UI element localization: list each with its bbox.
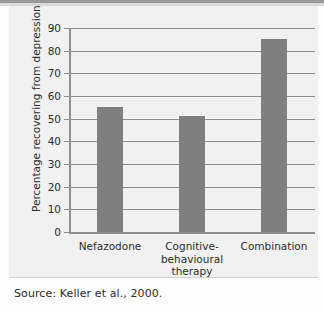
y-axis-tick-label: 40 [35, 135, 61, 147]
x-axis-line [69, 232, 315, 234]
bar [261, 39, 287, 232]
gridline [69, 28, 315, 29]
y-axis-tick-label: 20 [35, 181, 61, 193]
figure-source-area: Source: Keller et al., 2000. [9, 278, 318, 311]
figure-right-margin [318, 6, 324, 311]
x-axis-category-label-line: Combination [226, 240, 322, 253]
y-axis-line [69, 28, 71, 233]
bar [179, 116, 205, 232]
y-axis-tick-labels: 9080706050403020100 [31, 6, 61, 277]
figure-left-margin [0, 6, 9, 311]
y-axis-tick-label: 50 [35, 113, 61, 125]
x-axis-category-label-line: behavioural [144, 253, 240, 266]
chart-plot-panel: Percentage recovering from depression 90… [9, 6, 318, 277]
source-note: Source: Keller et al., 2000. [14, 287, 162, 300]
x-axis-category-label-line: therapy [144, 265, 240, 278]
y-axis-tick-label: 80 [35, 45, 61, 57]
y-axis-tick-label: 10 [35, 203, 61, 215]
y-axis-tick-label: 0 [35, 226, 61, 238]
y-axis-tick-label: 60 [35, 90, 61, 102]
y-axis-tick-label: 90 [35, 22, 61, 34]
figure-container: Percentage recovering from depression 90… [0, 0, 324, 311]
y-axis-tick-label: 70 [35, 67, 61, 79]
bar [97, 107, 123, 232]
x-axis-category-label: Combination [226, 240, 322, 253]
y-axis-tick-label: 30 [35, 158, 61, 170]
